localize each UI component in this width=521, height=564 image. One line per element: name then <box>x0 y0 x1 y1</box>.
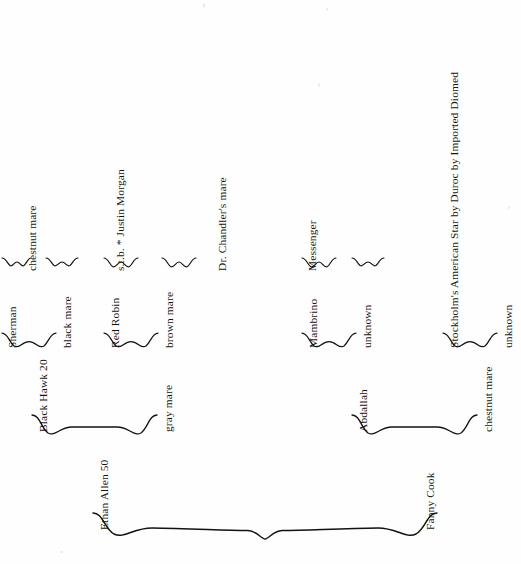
generation-2-brace-layer <box>0 0 521 564</box>
gen3-label-mambrino: Mambrino <box>308 299 319 348</box>
gen1-label-fanny-cook: Fanny Cook <box>425 472 436 530</box>
scan-speckle <box>60 551 63 553</box>
gen3-label-red-robin: Red Robin <box>110 298 121 348</box>
gen3-label-black-mare: black mare <box>62 296 73 348</box>
gen3-label-brown-mare: brown mare <box>164 292 175 348</box>
generation-1-brace-layer <box>0 0 521 564</box>
scan-speckle <box>326 8 328 11</box>
gen2-label-black-hawk-20: Black Hawk 20 <box>38 359 49 432</box>
gen3-label-unknown-dam-chestnut-mare: unknown <box>503 305 514 348</box>
gen4-label-justin-morgan: s.t.b. * Justin Morgan <box>115 169 126 271</box>
pedigree-chart-page: chestnut mare s.t.b. * Justin Morgan Dr.… <box>0 0 521 564</box>
gen1-label-ethan-allen-50: Ethan Allen 50 <box>99 460 110 530</box>
scan-speckle <box>508 206 510 209</box>
generation-3-brace-layer <box>0 0 521 564</box>
gen4-label-dr-chandlers-mare: Dr. Chandler's mare <box>217 177 228 271</box>
gen2-label-gray-mare: gray mare <box>163 385 174 432</box>
gen3-label-stockholms-american-star: Stockholm's American Star by Duroc by Im… <box>449 72 460 348</box>
generation-4-brace-layer <box>0 0 521 564</box>
gen3-label-unknown-dam-abdallah: unknown <box>362 305 373 348</box>
gen2-label-abdallah: Abdallah <box>358 389 369 432</box>
gen4-label-messenger: Messenger <box>307 220 318 271</box>
gen3-label-sherman: Sherman <box>7 306 18 348</box>
scan-speckle <box>318 83 320 87</box>
scan-speckle <box>203 3 205 8</box>
gen4-label-chestnut-mare: chestnut mare <box>27 205 38 271</box>
gen2-label-chestnut-mare: chestnut mare <box>483 366 494 432</box>
